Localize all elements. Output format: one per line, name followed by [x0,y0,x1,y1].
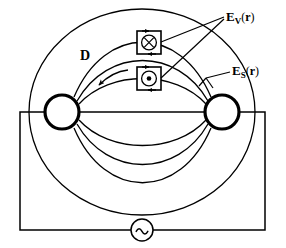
out-of-page-dot-icon [147,76,152,81]
ac-source [131,219,153,241]
label-ev-close-paren: ) [251,10,255,24]
field-line-lower-2 [77,124,208,165]
label-displacement: D [80,49,90,63]
label-e-vector-source: ES(r) [232,62,259,80]
field-line-lower-1 [79,120,206,146]
right-electrode [205,95,239,129]
label-ev-symbol: E [226,9,235,24]
leader-es-tail2 [206,78,213,88]
field-line-lower-3 [74,128,211,183]
diagram-canvas [0,0,286,248]
label-es-symbol: E [232,63,241,78]
leader-es [206,72,230,78]
leader-ev-from-into-page [161,17,224,42]
curl-box-out-of-page [137,67,161,90]
left-electrode [45,95,79,129]
curl-box-into-page [137,31,161,54]
physics-field-diagram: EV(r) ES(r) D [0,0,286,248]
label-e-vector-volume: EV(r) [226,8,255,26]
leader-lines [161,17,230,88]
label-es-close-paren: ) [255,64,259,78]
